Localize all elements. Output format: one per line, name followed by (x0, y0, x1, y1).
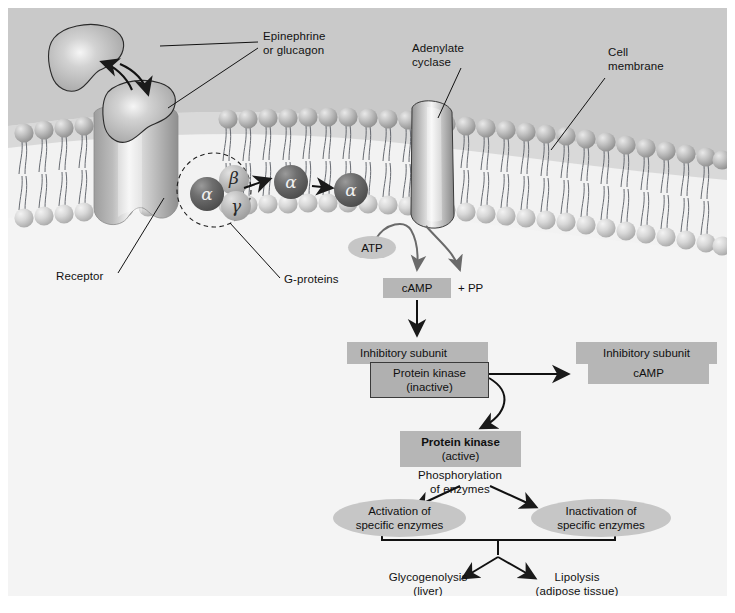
label-phosphorylation: Phosphorylation of enzymes (418, 469, 502, 496)
camp-box: cAMP (383, 278, 451, 298)
label-lipolysis: Lipolysis (adipose tissue) (536, 571, 619, 596)
cytoplasm (8, 205, 727, 596)
label-hormone: Epinephrine or glucagon (263, 30, 325, 57)
label-glycogenolysis: Glycogenolysis (liver) (389, 571, 468, 596)
label-receptor: Receptor (56, 270, 103, 284)
figure-plate: Epinephrine or glucagon Adenylate cyclas… (8, 8, 727, 596)
label-adenylate-cyclase: Adenylate cyclase (412, 42, 464, 69)
camp-bound-box: cAMP (588, 362, 709, 384)
activation-node: Activation of specific enzymes (333, 499, 466, 537)
protein-kinase-active-title: Protein kinase (421, 435, 500, 449)
glyph-alpha-free-1: α (285, 172, 296, 192)
atp-node: ATP (348, 236, 396, 259)
inhibitory-subunit-left-box: Inhibitory subunit (347, 342, 488, 364)
protein-kinase-inactive-box: Protein kinase (inactive) (370, 362, 489, 398)
pp-label: + PP (458, 281, 483, 295)
diagram-page: Epinephrine or glucagon Adenylate cyclas… (0, 0, 735, 613)
protein-kinase-active-state: (active) (442, 449, 480, 463)
label-g-proteins: G-proteins (284, 273, 339, 287)
label-cell-membrane: Cell membrane (608, 46, 664, 73)
glyph-alpha-bound: α (201, 184, 212, 204)
glyph-beta: β (229, 168, 239, 188)
inhibitory-subunit-right-box: Inhibitory subunit (576, 342, 717, 364)
inactivation-node: Inactivation of specific enzymes (531, 499, 671, 537)
glyph-gamma: γ (231, 196, 241, 216)
glyph-alpha-free-2: α (345, 180, 356, 200)
